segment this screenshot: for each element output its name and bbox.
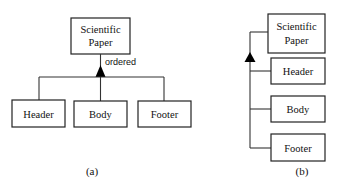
node-label: Footer xyxy=(284,143,312,154)
aggregation-triangle-icon xyxy=(96,65,106,77)
ordered-annotation: ordered xyxy=(105,57,136,67)
node-body-b: Body xyxy=(271,96,325,122)
node-label-line2: Paper xyxy=(285,35,309,46)
caption-a: (a) xyxy=(86,165,99,178)
node-label-line1: Scientific xyxy=(276,21,317,32)
node-footer-a: Footer xyxy=(138,101,191,127)
diagram-canvas: Scientific Paper ordered Header Body Foo… xyxy=(0,0,340,185)
diagram-b: Scientific Paper Header Body Footer (b) xyxy=(245,14,326,178)
node-label-line2: Paper xyxy=(89,37,113,48)
diagram-a: Scientific Paper ordered Header Body Foo… xyxy=(12,18,191,178)
node-footer-b: Footer xyxy=(271,134,325,161)
node-label-line1: Scientific xyxy=(80,24,121,35)
node-label: Header xyxy=(23,109,54,120)
node-label: Body xyxy=(89,109,113,120)
node-header-a: Header xyxy=(12,100,65,127)
caption-b: (b) xyxy=(296,165,309,178)
node-label: Body xyxy=(287,104,311,115)
node-label: Header xyxy=(283,66,314,77)
node-box xyxy=(268,14,325,53)
node-scientific-paper-b: Scientific Paper xyxy=(268,14,325,53)
node-label: Footer xyxy=(151,109,179,120)
aggregation-triangle-icon xyxy=(245,52,256,62)
node-body-a: Body xyxy=(74,101,127,127)
node-header-b: Header xyxy=(271,58,325,84)
node-scientific-paper-a: Scientific Paper xyxy=(71,18,130,54)
